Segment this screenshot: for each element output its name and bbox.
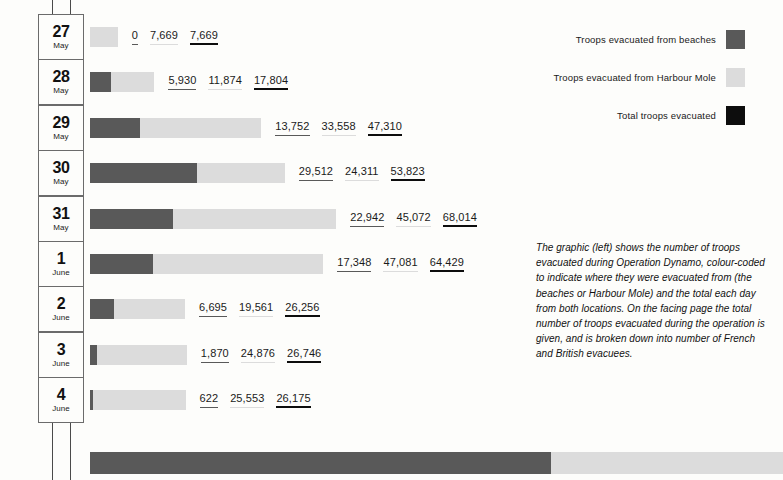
bar-segment-harbour-mole — [153, 254, 323, 274]
caption-text: The graphic (left) shows the number of t… — [536, 240, 766, 362]
bar-segment-beaches — [90, 345, 97, 365]
date-month: June — [52, 314, 70, 322]
date-day: 3 — [57, 342, 66, 358]
value-total: 26,746 — [287, 347, 321, 363]
value-total-underline — [190, 43, 218, 45]
date-day: 4 — [57, 387, 66, 403]
bar-segment-harbour-mole — [111, 72, 154, 92]
value-total-underline — [254, 88, 288, 90]
value-total: 26,175 — [276, 392, 310, 408]
date-box: 29May — [38, 105, 84, 151]
date-box: 1June — [38, 241, 84, 287]
summary-beaches-segment — [90, 452, 551, 474]
date-day: 30 — [52, 160, 69, 176]
value-harbour-mole: 24,311 — [345, 165, 378, 181]
bar-segment-beaches — [90, 72, 111, 92]
value-beaches-underline — [299, 180, 333, 181]
stacked-bar — [90, 72, 154, 92]
value-beaches-text: 29,512 — [299, 165, 333, 177]
value-harbour-mole-underline — [150, 44, 178, 45]
value-harbour-mole-text: 7,669 — [150, 29, 178, 41]
value-beaches-underline — [350, 226, 384, 227]
legend-item-total: Total troops evacuated — [445, 106, 745, 125]
value-total: 26,256 — [285, 301, 319, 317]
stacked-bar — [90, 299, 185, 319]
stacked-bar — [90, 118, 261, 138]
value-harbour-mole-underline — [383, 271, 417, 272]
value-harbour-mole-text: 25,553 — [230, 392, 264, 404]
value-beaches-text: 13,752 — [275, 120, 309, 132]
value-beaches-text: 0 — [132, 29, 138, 41]
value-harbour-mole-text: 45,072 — [396, 211, 430, 223]
value-total-text: 64,429 — [430, 256, 464, 268]
value-harbour-mole-underline — [396, 226, 430, 227]
date-day: 31 — [52, 206, 69, 222]
date-box: 31May — [38, 196, 84, 242]
value-harbour-mole: 19,561 — [239, 301, 273, 317]
light-gray-square-swatch — [726, 68, 745, 87]
value-total-underline — [443, 225, 477, 227]
value-harbour-mole-underline — [345, 180, 378, 181]
value-total: 53,823 — [391, 165, 425, 181]
value-beaches-text: 22,942 — [350, 211, 384, 223]
row-values: 1,87024,87626,746 — [201, 345, 322, 365]
value-total-text: 26,256 — [285, 301, 319, 313]
value-beaches-underline — [337, 271, 371, 272]
stacked-bar — [90, 209, 336, 229]
stacked-bar — [90, 254, 323, 274]
date-month: May — [53, 178, 68, 186]
value-beaches: 0 — [132, 29, 138, 45]
date-month: May — [53, 224, 68, 232]
value-beaches-text: 622 — [200, 392, 219, 404]
bar-segment-harbour-mole — [114, 299, 185, 319]
date-day: 29 — [52, 115, 69, 131]
value-beaches: 1,870 — [201, 347, 229, 363]
value-beaches-text: 5,930 — [168, 74, 196, 86]
value-total-text: 26,175 — [276, 392, 310, 404]
value-total-text: 26,746 — [287, 347, 321, 359]
value-beaches-underline — [201, 362, 229, 363]
value-beaches: 5,930 — [168, 74, 196, 90]
value-total-underline — [276, 406, 310, 408]
date-box: 27May — [38, 14, 84, 60]
value-total-text: 53,823 — [391, 165, 425, 177]
value-harbour-mole-text: 19,561 — [239, 301, 273, 313]
value-total-underline — [285, 315, 319, 317]
value-harbour-mole-text: 11,874 — [208, 74, 241, 86]
value-beaches-underline — [132, 44, 138, 45]
dark-gray-square-swatch — [726, 30, 745, 49]
value-total: 68,014 — [443, 211, 477, 227]
value-harbour-mole-underline — [208, 89, 241, 90]
stacked-bar — [90, 390, 186, 410]
value-harbour-mole: 33,558 — [322, 120, 356, 136]
summary-total-bar — [90, 452, 783, 474]
bar-segment-beaches — [90, 299, 114, 319]
date-month: May — [53, 42, 68, 50]
value-harbour-mole: 11,874 — [208, 74, 241, 90]
value-total: 64,429 — [430, 256, 464, 272]
stacked-bar — [90, 345, 187, 365]
value-harbour-mole: 47,081 — [383, 256, 417, 272]
value-total-underline — [391, 179, 425, 181]
legend: Troops evacuated from beaches Troops eva… — [445, 30, 745, 144]
black-square-swatch — [726, 106, 745, 125]
legend-label-total: Total troops evacuated — [617, 110, 716, 121]
value-beaches-underline — [275, 135, 309, 136]
summary-harbour-mole-segment — [551, 452, 783, 474]
value-harbour-mole-underline — [239, 316, 273, 317]
stacked-bar — [90, 163, 285, 183]
value-total: 17,804 — [254, 74, 288, 90]
row-values: 13,75233,55847,310 — [275, 118, 402, 138]
value-harbour-mole-underline — [241, 362, 275, 363]
value-beaches: 13,752 — [275, 120, 309, 136]
date-box: 3June — [38, 332, 84, 378]
value-harbour-mole: 25,553 — [230, 392, 264, 408]
row-values: 22,94245,07268,014 — [350, 209, 477, 229]
date-box: 30May — [38, 150, 84, 196]
value-beaches: 6,695 — [199, 301, 227, 317]
value-beaches-underline — [199, 316, 227, 317]
value-total-underline — [287, 361, 321, 363]
value-harbour-mole-text: 24,876 — [241, 347, 275, 359]
bar-segment-harbour-mole — [97, 345, 187, 365]
value-total-text: 7,669 — [190, 29, 218, 41]
